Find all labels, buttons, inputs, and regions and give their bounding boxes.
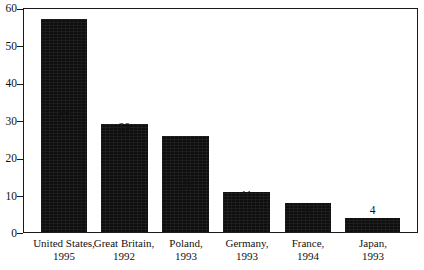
category-year: 1994 <box>271 250 345 263</box>
bar-grain <box>41 19 87 233</box>
bar-grain <box>101 124 148 233</box>
y-tick-label-60: 60 <box>0 3 17 15</box>
category-year: 1993 <box>336 250 410 263</box>
bar-value-united-states: 57 <box>41 111 87 123</box>
y-tick-label-30: 30 <box>0 116 17 128</box>
y-tick-label-0: 0 <box>0 228 17 240</box>
y-tick-label-50: 50 <box>0 41 17 53</box>
category-label-japan: Japan, 1993 <box>336 237 410 262</box>
bar-great-britain[interactable] <box>101 124 148 233</box>
bar-value-poland: 26 <box>162 178 209 190</box>
bar-value-germany: 11 <box>223 190 270 202</box>
category-name: France, <box>271 237 345 250</box>
bar-value-japan: 4 <box>345 205 400 217</box>
y-tick-mark-0 <box>17 233 23 234</box>
category-label-france: France, 1994 <box>271 237 345 262</box>
y-tick-label-20: 20 <box>0 153 17 165</box>
bar-united-states[interactable] <box>41 19 87 233</box>
bar-value-great-britain: 29 <box>101 122 148 134</box>
category-name: Japan, <box>336 237 410 250</box>
bar-chart: 60 50 40 30 20 10 0 57 29 26 11 8 4 <box>0 0 424 270</box>
bar-japan[interactable] <box>345 218 400 233</box>
bar-grain <box>345 218 400 233</box>
y-tick-label-10: 10 <box>0 191 17 203</box>
y-tick-label-40: 40 <box>0 78 17 90</box>
bar-value-france: 8 <box>285 205 331 217</box>
